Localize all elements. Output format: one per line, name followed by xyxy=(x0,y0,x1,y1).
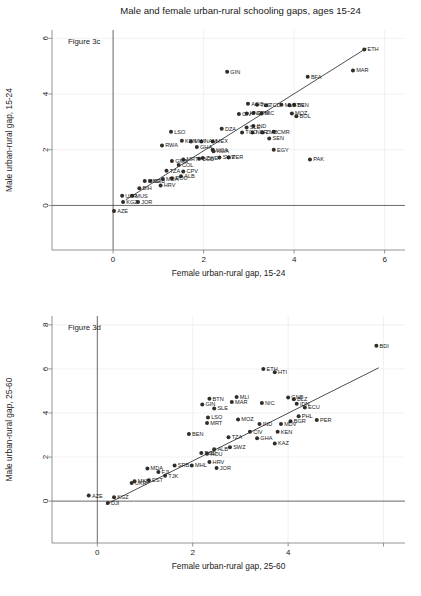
data-point[interactable]: BEN xyxy=(187,431,204,437)
data-point-marker[interactable] xyxy=(170,159,174,163)
data-point[interactable]: BFA xyxy=(306,74,322,80)
data-point[interactable]: CIV xyxy=(248,429,263,435)
data-point-marker[interactable] xyxy=(169,130,173,134)
data-point[interactable]: GHA xyxy=(195,144,213,150)
data-point-marker[interactable] xyxy=(205,452,209,456)
data-point-marker[interactable] xyxy=(290,112,294,116)
data-point-marker[interactable] xyxy=(215,466,219,470)
data-point[interactable]: DJI xyxy=(106,500,120,506)
data-point[interactable]: MLI xyxy=(279,102,294,108)
data-point-marker[interactable] xyxy=(258,422,262,426)
data-point-marker[interactable] xyxy=(255,436,259,440)
data-point[interactable]: PER xyxy=(315,417,332,423)
data-point-marker[interactable] xyxy=(272,148,276,152)
data-point[interactable]: GHA xyxy=(255,435,273,441)
data-point[interactable]: EGY xyxy=(272,147,289,153)
data-point-marker[interactable] xyxy=(212,407,216,411)
data-point[interactable]: KEN xyxy=(276,429,293,435)
data-point-marker[interactable] xyxy=(207,460,211,464)
data-point[interactable]: SRB xyxy=(173,462,190,468)
data-point-marker[interactable] xyxy=(164,169,168,173)
data-point[interactable]: HRV xyxy=(207,459,224,465)
data-point-marker[interactable] xyxy=(217,156,221,160)
data-point-marker[interactable] xyxy=(206,415,210,419)
data-point-marker[interactable] xyxy=(177,163,181,167)
data-point[interactable]: PAK xyxy=(308,156,324,162)
data-point[interactable]: JOR xyxy=(215,465,231,471)
data-point[interactable]: IND xyxy=(258,421,273,427)
data-point-marker[interactable] xyxy=(190,463,194,467)
data-point-marker[interactable] xyxy=(87,494,91,498)
data-point[interactable]: DZA xyxy=(220,126,237,132)
data-point[interactable]: MAR xyxy=(351,67,369,73)
data-point[interactable]: MDA xyxy=(145,465,163,471)
data-point-marker[interactable] xyxy=(297,414,301,418)
data-point-marker[interactable] xyxy=(199,451,203,455)
data-point-marker[interactable] xyxy=(308,157,312,161)
data-point-marker[interactable] xyxy=(237,112,241,116)
data-point-marker[interactable] xyxy=(180,139,184,143)
data-point[interactable]: UKR xyxy=(120,193,137,199)
data-point[interactable]: MHL xyxy=(190,462,207,468)
data-point[interactable]: MRT xyxy=(205,420,223,426)
data-point[interactable]: BIH xyxy=(137,185,152,191)
data-point-marker[interactable] xyxy=(173,463,177,467)
data-point[interactable]: TZA xyxy=(227,434,243,440)
data-point-marker[interactable] xyxy=(273,441,277,445)
data-point-marker[interactable] xyxy=(230,400,234,404)
data-point[interactable]: NIC xyxy=(260,400,275,406)
data-point-marker[interactable] xyxy=(315,418,319,422)
data-point-marker[interactable] xyxy=(240,130,244,134)
data-point-marker[interactable] xyxy=(207,397,211,401)
data-point-marker[interactable] xyxy=(267,137,271,141)
data-point[interactable]: ETH xyxy=(362,46,378,52)
data-point-marker[interactable] xyxy=(205,421,209,425)
data-point-marker[interactable] xyxy=(106,501,110,505)
data-point-marker[interactable] xyxy=(200,403,204,407)
data-point[interactable]: JOR xyxy=(136,199,152,205)
data-point-marker[interactable] xyxy=(279,422,283,426)
data-point[interactable]: MAR xyxy=(230,399,248,405)
data-point-marker[interactable] xyxy=(276,430,280,434)
data-point[interactable]: AZE xyxy=(87,493,103,499)
data-point-marker[interactable] xyxy=(261,367,265,371)
data-point-marker[interactable] xyxy=(212,149,216,153)
data-point[interactable]: KAZ xyxy=(273,440,290,446)
data-point-marker[interactable] xyxy=(374,344,378,348)
data-point[interactable]: MKD xyxy=(143,178,161,184)
data-point-marker[interactable] xyxy=(143,179,147,183)
data-point-marker[interactable] xyxy=(159,183,163,187)
data-point-marker[interactable] xyxy=(362,47,366,51)
data-point[interactable]: SEN xyxy=(267,135,284,141)
data-point-marker[interactable] xyxy=(120,194,124,198)
data-point[interactable]: CIV xyxy=(237,111,252,117)
data-point-marker[interactable] xyxy=(289,419,293,423)
data-point[interactable]: MOZ xyxy=(236,416,254,422)
data-point[interactable]: SWZ xyxy=(228,444,246,450)
data-point-marker[interactable] xyxy=(273,370,277,374)
data-point-marker[interactable] xyxy=(248,430,252,434)
data-point-marker[interactable] xyxy=(225,70,229,74)
data-point[interactable]: TZA xyxy=(164,168,180,174)
data-point-marker[interactable] xyxy=(163,474,167,478)
data-point[interactable]: TGO xyxy=(240,129,258,135)
data-point[interactable]: KGZ xyxy=(121,199,138,205)
data-point[interactable]: GIN xyxy=(225,69,240,75)
data-point-marker[interactable] xyxy=(236,418,240,422)
data-point[interactable]: AZE xyxy=(112,208,128,214)
data-point[interactable]: SWZ xyxy=(217,154,235,160)
data-point-marker[interactable] xyxy=(303,405,307,409)
data-point-marker[interactable] xyxy=(227,435,231,439)
data-point[interactable]: LSO xyxy=(169,129,186,135)
data-point-marker[interactable] xyxy=(292,397,296,401)
data-point-marker[interactable] xyxy=(189,139,193,143)
data-point-marker[interactable] xyxy=(246,102,250,106)
data-point-marker[interactable] xyxy=(187,432,191,436)
data-point-marker[interactable] xyxy=(295,402,299,406)
data-point[interactable]: BGD xyxy=(197,156,214,162)
data-point-marker[interactable] xyxy=(133,479,137,483)
data-point[interactable]: RWA xyxy=(160,142,178,148)
data-point-marker[interactable] xyxy=(294,114,298,118)
data-point-marker[interactable] xyxy=(228,445,232,449)
data-point-marker[interactable] xyxy=(351,68,355,72)
